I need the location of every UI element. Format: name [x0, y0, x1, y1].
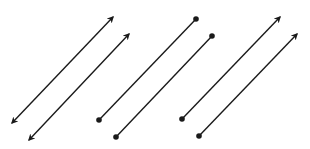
segment-1-start-point [96, 117, 102, 123]
ray-1-endpoint [179, 116, 185, 122]
segment-1-end-point [193, 16, 199, 22]
shapes-group [12, 16, 297, 140]
parallel-lines [12, 17, 129, 140]
line-1 [12, 17, 113, 123]
parallel-rays [179, 17, 297, 139]
segment-2-start-point [113, 134, 119, 140]
diagram-canvas [0, 0, 310, 149]
segment-2-end-point [209, 33, 215, 39]
parallel-segments [96, 16, 215, 140]
ray-2-endpoint [196, 133, 202, 139]
line-2 [29, 34, 129, 140]
